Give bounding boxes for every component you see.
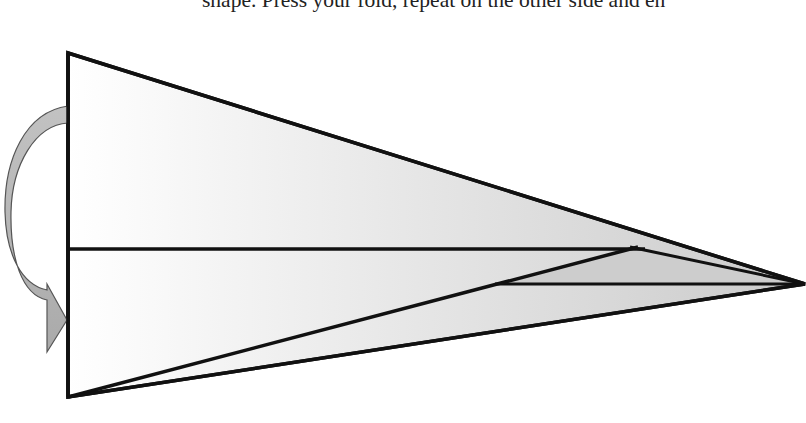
fold-arrow-icon <box>5 106 68 352</box>
paper-outer-triangle <box>68 53 805 397</box>
paper-airplane-diagram <box>0 0 806 423</box>
